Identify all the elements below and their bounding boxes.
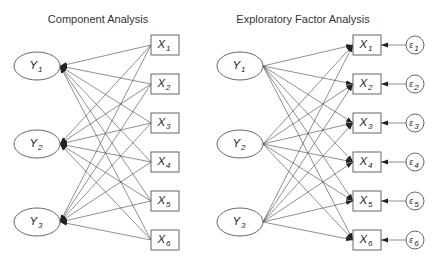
latent-node-y3: Y3 [14, 208, 60, 236]
component-analysis-title: Component Analysis [48, 13, 149, 25]
edge-X1-to-Y1 [60, 45, 151, 66]
error-node-e4: ε4 [406, 153, 424, 171]
observed-node-x3: X3 [151, 113, 179, 133]
observed-node-x2: X2 [151, 74, 179, 94]
edge-X1-to-Y2 [60, 45, 151, 144]
observed-node-x5: X5 [151, 191, 179, 211]
edge-Y3-to-X6 [263, 222, 353, 240]
edge-X2-to-Y1 [60, 66, 151, 84]
edge-Y1-to-X1 [263, 45, 353, 66]
latent-node-y2: Y2 [217, 130, 263, 158]
edge-X2-to-Y2 [60, 84, 151, 144]
component-diagram: Y1Y2Y3X1X2X3X4X5X6 [14, 35, 179, 250]
edge-Y3-to-X2 [263, 84, 353, 222]
latent-node-y1: Y1 [14, 52, 60, 80]
edge-X5-to-Y3 [60, 201, 151, 222]
observed-node-x6: X6 [151, 230, 179, 250]
error-node-e1: ε1 [406, 36, 424, 54]
observed-node-x5: X5 [353, 191, 381, 211]
error-node-e3: ε3 [406, 114, 424, 132]
observed-node-x4: X4 [151, 152, 179, 172]
observed-node-x6: X6 [353, 230, 381, 250]
edge-X2-to-Y3 [60, 84, 151, 222]
edge-Y1-to-X2 [263, 66, 353, 84]
efa-title: Exploratory Factor Analysis [236, 13, 370, 25]
observed-node-x4: X4 [353, 152, 381, 172]
edge-X4-to-Y3 [60, 162, 151, 222]
edge-Y3-to-X5 [263, 201, 353, 222]
latent-node-y1: Y1 [217, 52, 263, 80]
edge-Y2-to-X1 [263, 45, 353, 144]
edge-X1-to-Y3 [60, 45, 151, 222]
diagram-canvas: Y1Y2Y3X1X2X3X4X5X6Y1Y2Y3X1X2X3X4X5X6ε1ε2… [0, 0, 440, 267]
edge-Y3-to-X4 [263, 162, 353, 222]
edge-Y2-to-X2 [263, 84, 353, 144]
latent-node-y3: Y3 [217, 208, 263, 236]
error-node-e5: ε5 [406, 192, 424, 210]
observed-node-x2: X2 [353, 74, 381, 94]
observed-node-x1: X1 [353, 35, 381, 55]
edge-Y3-to-X3 [263, 123, 353, 222]
edge-X6-to-Y3 [60, 222, 151, 240]
latent-node-y2: Y2 [14, 130, 60, 158]
observed-node-x1: X1 [151, 35, 179, 55]
error-node-e2: ε2 [406, 75, 424, 93]
observed-node-x3: X3 [353, 113, 381, 133]
edge-X3-to-Y3 [60, 123, 151, 222]
error-node-e6: ε6 [406, 231, 424, 249]
edge-Y3-to-X1 [263, 45, 353, 222]
efa-diagram: Y1Y2Y3X1X2X3X4X5X6ε1ε2ε3ε4ε5ε6 [217, 35, 424, 250]
